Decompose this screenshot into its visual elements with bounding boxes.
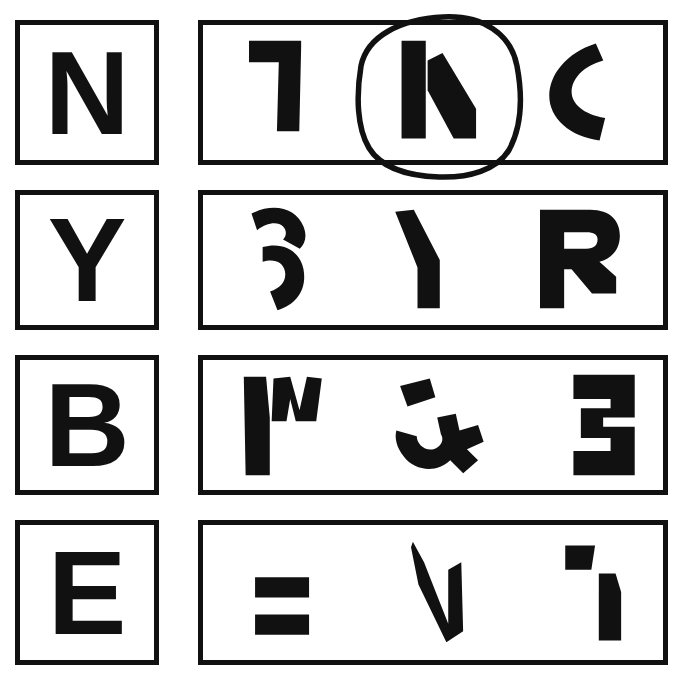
r-block-fragment-icon [523, 195, 635, 325]
cue-box-n: N [15, 20, 159, 165]
choice-box-n [198, 20, 668, 165]
choice-b-3[interactable] [555, 360, 655, 490]
cue-letter-e: E [20, 525, 154, 660]
y-stem-fragment-icon [379, 195, 469, 325]
cue-letter-n: N [20, 25, 154, 160]
s-curl-fragment-icon [239, 195, 329, 325]
equals-bars-fragment-icon [243, 525, 323, 660]
choice-n-2[interactable] [381, 25, 491, 160]
choice-e-1[interactable] [243, 525, 323, 660]
c-crescent-icon [525, 25, 635, 160]
choice-b-2[interactable] [375, 360, 505, 490]
choice-y-3[interactable] [523, 195, 635, 325]
choice-e-2[interactable] [393, 525, 483, 660]
cue-box-y: Y [15, 190, 159, 330]
task-row-e: E [0, 520, 681, 665]
choice-y-2[interactable] [379, 195, 469, 325]
n-fragment-icon [381, 25, 491, 160]
choice-y-1[interactable] [239, 195, 329, 325]
cue-box-e: E [15, 520, 159, 665]
choice-box-y [198, 190, 668, 330]
cue-box-b: B [15, 355, 159, 495]
v-check-fragment-icon [393, 525, 483, 660]
choice-n-3[interactable] [525, 25, 635, 160]
m-fragment-icon [225, 360, 335, 490]
choice-box-e [198, 520, 668, 665]
choice-box-b [198, 355, 668, 495]
task-row-b: B [0, 355, 681, 495]
one-flag-fragment-icon [551, 525, 641, 660]
choice-n-1[interactable] [231, 25, 321, 160]
seven-hook-fragment-icon [231, 25, 321, 160]
scattered-blob-fragment-icon [375, 360, 505, 490]
three-fragment-icon [555, 360, 655, 490]
cue-letter-b: B [20, 360, 154, 490]
choice-e-3[interactable] [551, 525, 641, 660]
letter-fragment-task-page: N [0, 0, 681, 688]
task-row-y: Y [0, 190, 681, 330]
task-row-n: N [0, 20, 681, 165]
choice-b-1[interactable] [225, 360, 335, 490]
cue-letter-y: Y [20, 195, 154, 325]
